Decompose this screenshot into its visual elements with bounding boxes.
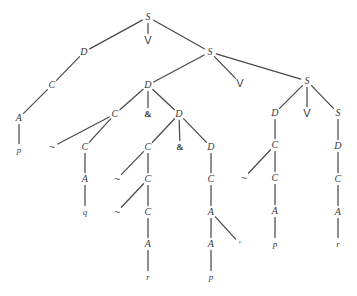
tree-node-r: r — [146, 273, 150, 282]
tree-node-p: p — [17, 146, 22, 155]
tree-node-: ~ — [49, 142, 56, 153]
tree-node-V: V — [144, 35, 152, 46]
tree-node-: & — [176, 143, 184, 152]
tree-node-D: D — [334, 141, 341, 151]
tree-node-D: D — [271, 108, 278, 118]
tree-node-D: D — [175, 109, 182, 119]
tree-node-C: C — [208, 174, 215, 184]
tree-node-C: C — [145, 142, 152, 152]
tree-node-: ~ — [114, 207, 121, 218]
tree-node-C: C — [112, 109, 119, 119]
tree-node-D: D — [144, 80, 151, 90]
tree-node-D: D — [80, 47, 87, 57]
tree-node-: ~ — [241, 173, 248, 184]
tree-node-V: V — [303, 108, 311, 119]
syntax-tree-figure: SDVSCApDVSC&D~CAqC&D~C~CArCAA′pDVSC~CApD… — [0, 0, 357, 296]
tree-node-S: S — [145, 12, 150, 22]
tree-node-A: A — [145, 239, 151, 249]
tree-node-C: C — [335, 174, 342, 184]
tree-node-S: S — [304, 76, 309, 86]
tree-node-: ′ — [239, 239, 242, 250]
tree-node-: & — [144, 110, 152, 119]
tree-node-p: p — [209, 273, 214, 282]
tree-node-A: A — [208, 239, 214, 249]
tree-node-S: S — [335, 108, 340, 118]
tree-node-C: C — [272, 140, 279, 150]
tree-node-A: A — [82, 174, 88, 184]
tree-node-: ~ — [114, 174, 121, 185]
tree-node-V: V — [236, 78, 244, 89]
tree-node-A: A — [16, 113, 22, 123]
tree-node-A: A — [208, 207, 214, 217]
tree-node-C: C — [272, 173, 279, 183]
tree-node-q: q — [83, 208, 88, 217]
tree-node-C: C — [145, 207, 152, 217]
tree-node-A: A — [272, 206, 278, 216]
tree-node-r: r — [336, 240, 340, 249]
tree-node-S: S — [207, 47, 212, 57]
tree-node-A: A — [335, 207, 341, 217]
tree-node-layer: SDVSCApDVSC&D~CAqC&D~C~CArCAA′pDVSC~CApD… — [0, 0, 357, 296]
tree-node-C: C — [82, 142, 89, 152]
tree-node-D: D — [207, 142, 214, 152]
tree-node-p: p — [273, 240, 278, 249]
tree-node-C: C — [145, 174, 152, 184]
tree-node-C: C — [49, 80, 56, 90]
